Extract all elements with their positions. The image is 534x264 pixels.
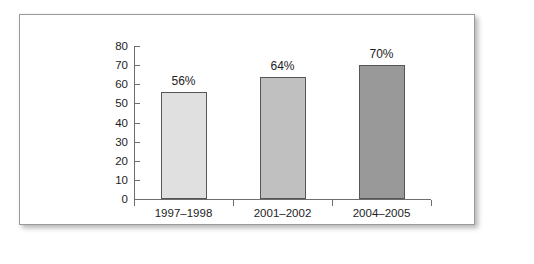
x-axis-line xyxy=(134,199,431,200)
y-axis-tick-label: 0 xyxy=(88,199,134,200)
x-axis-tick-mark xyxy=(233,200,234,206)
y-axis-tick-label: 20 xyxy=(88,160,134,161)
y-axis-tick-label: 50 xyxy=(88,103,134,104)
x-axis-tick-mark xyxy=(431,200,432,206)
bar-value-label: 64% xyxy=(243,59,323,73)
bar xyxy=(359,65,405,199)
y-axis-tick-mark xyxy=(134,46,140,47)
y-axis-tick-label: 30 xyxy=(88,141,134,142)
y-axis-tick-mark xyxy=(134,65,140,66)
bar-chart-plot-area: 01020304050607080 56%1997–199864%2001–20… xyxy=(20,15,474,224)
bar xyxy=(260,77,306,199)
x-axis-tick-mark xyxy=(332,200,333,206)
y-axis-tick-label: 40 xyxy=(88,122,134,123)
y-axis-tick-mark xyxy=(134,123,140,124)
y-axis-tick-mark xyxy=(134,161,140,162)
y-axis-tick-mark xyxy=(134,84,140,85)
y-axis-tick-mark xyxy=(134,180,140,181)
y-axis-tick-mark xyxy=(134,142,140,143)
y-axis-tick-label: 80 xyxy=(88,46,134,47)
y-axis-tick-mark xyxy=(134,103,140,104)
x-axis-category-label: 2004–2005 xyxy=(332,207,432,219)
x-axis-tick-mark xyxy=(134,200,135,206)
bar-value-label: 70% xyxy=(342,47,422,61)
bar-value-label: 56% xyxy=(144,74,224,88)
x-axis-category-label: 2001–2002 xyxy=(233,207,333,219)
figure-panel: 01020304050607080 56%1997–199864%2001–20… xyxy=(19,14,475,225)
x-axis-category-label: 1997–1998 xyxy=(134,207,234,219)
y-axis-tick-label: 60 xyxy=(88,84,134,85)
y-axis-tick-label: 10 xyxy=(88,179,134,180)
bar xyxy=(161,92,207,199)
y-axis-tick-label: 70 xyxy=(88,65,134,66)
